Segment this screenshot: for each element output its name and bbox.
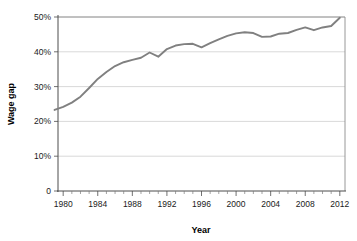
x-tick-label-1988: 1988: [123, 199, 142, 209]
y-axis-ticks-group: [54, 17, 58, 191]
x-tick-label-1984: 1984: [88, 199, 107, 209]
y-tick-label-20: 20%: [34, 116, 51, 126]
gridlines-group: [58, 17, 345, 156]
y-tick-label-10: 10%: [34, 151, 51, 161]
x-tick-label-2008: 2008: [296, 199, 315, 209]
y-tick-label-50: 50%: [34, 12, 51, 22]
x-tick-label-2012: 2012: [330, 199, 349, 209]
x-axis-tick-labels-group: 198019841988199219962000200420082012: [54, 199, 350, 209]
plot-frame: [58, 17, 345, 191]
x-tick-label-1992: 1992: [157, 199, 176, 209]
y-axis-title: Wage gap: [6, 82, 16, 125]
chart-canvas: 010%20%30%40%50% 19801984198819921996200…: [0, 0, 357, 241]
x-tick-label-2000: 2000: [227, 199, 246, 209]
x-axis-ticks-group: [63, 191, 340, 196]
x-tick-label-1980: 1980: [54, 199, 73, 209]
y-axis-tick-labels-group: 010%20%30%40%50%: [34, 12, 51, 196]
wage-gap-data-line: [55, 18, 340, 110]
x-axis-title: Year: [191, 225, 211, 235]
wage-gap-line-chart: 010%20%30%40%50% 19801984198819921996200…: [0, 0, 357, 241]
y-tick-label-30: 30%: [34, 82, 51, 92]
x-tick-label-2004: 2004: [261, 199, 280, 209]
x-tick-label-1996: 1996: [192, 199, 211, 209]
y-tick-label-40: 40%: [34, 47, 51, 57]
y-tick-label-0: 0: [46, 186, 51, 196]
